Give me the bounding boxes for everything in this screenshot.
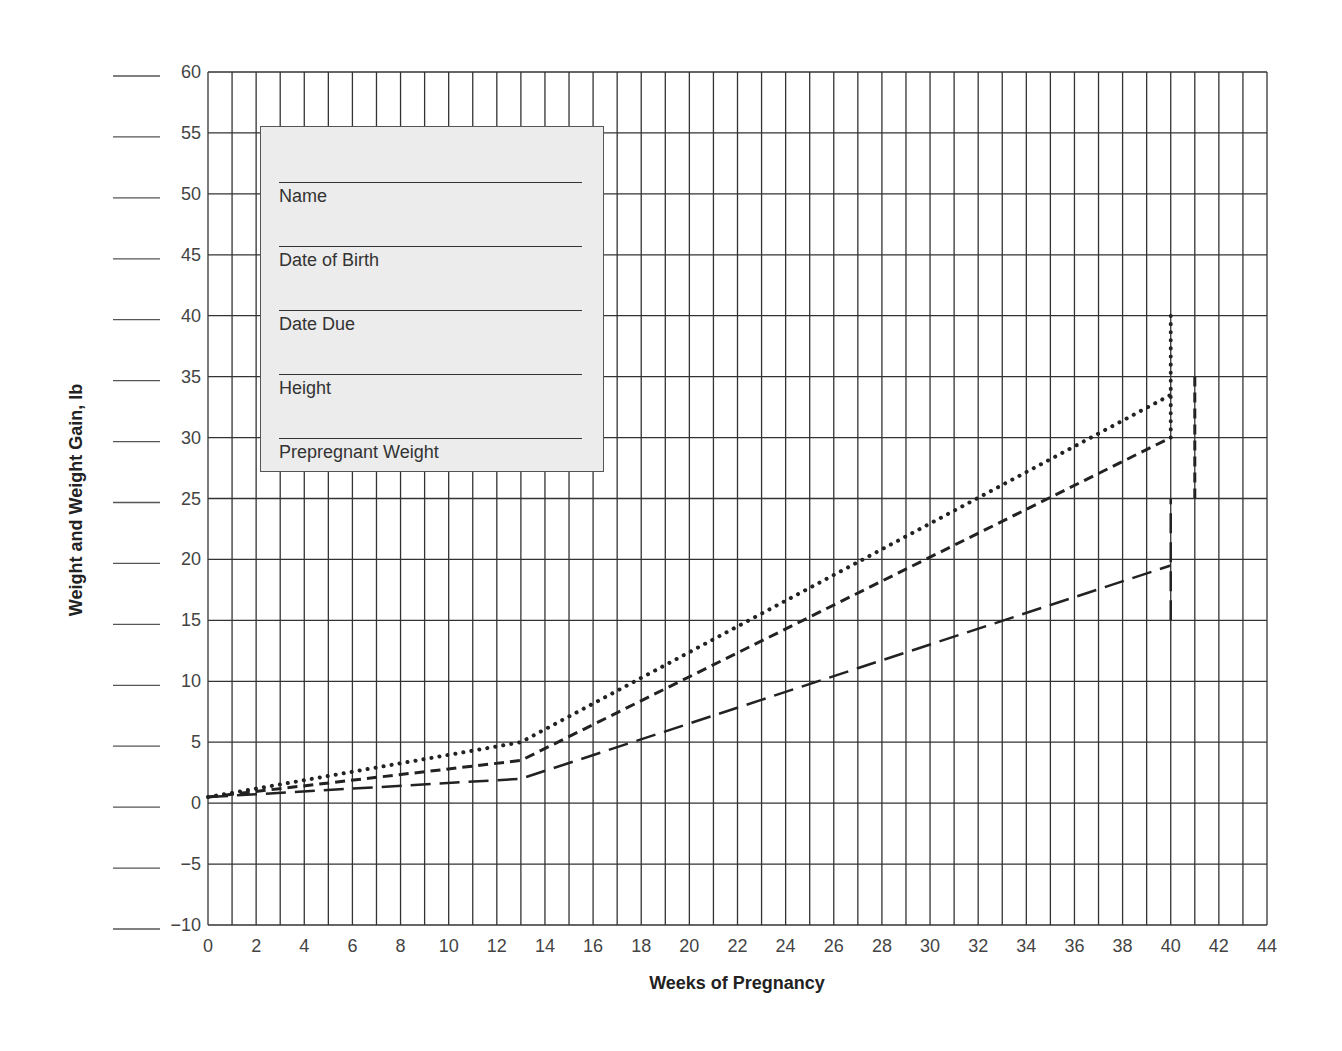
- x-tick-label: 18: [631, 936, 651, 956]
- y-axis-title: Weight and Weight Gain, lb: [66, 384, 86, 616]
- x-tick-label: 28: [872, 936, 892, 956]
- x-tick-label: 2: [251, 936, 261, 956]
- y-tick-label: 55: [181, 123, 201, 143]
- x-tick-label: 44: [1257, 936, 1277, 956]
- y-tick-label: 15: [181, 610, 201, 630]
- height-field[interactable]: Height: [279, 374, 582, 375]
- x-tick-label: 10: [439, 936, 459, 956]
- name-label: Name: [279, 186, 327, 207]
- y-tick-label: 30: [181, 428, 201, 448]
- y-tick-label: −5: [180, 854, 201, 874]
- date-of-birth-label: Date of Birth: [279, 250, 379, 271]
- name-field[interactable]: Name: [279, 182, 582, 183]
- x-tick-label: 34: [1016, 936, 1036, 956]
- x-axis-ticks: 0246810121416182022242628303234363840424…: [203, 936, 1277, 956]
- x-tick-label: 8: [396, 936, 406, 956]
- weight-entry-blanks: [113, 76, 160, 929]
- x-tick-label: 0: [203, 936, 213, 956]
- x-tick-label: 26: [824, 936, 844, 956]
- x-tick-label: 36: [1064, 936, 1084, 956]
- x-tick-label: 16: [583, 936, 603, 956]
- y-tick-label: 10: [181, 671, 201, 691]
- prepregnant-weight-field[interactable]: Prepregnant Weight: [279, 438, 582, 439]
- x-tick-label: 20: [679, 936, 699, 956]
- x-tick-label: 6: [347, 936, 357, 956]
- y-tick-label: 60: [181, 62, 201, 82]
- y-tick-label: 20: [181, 549, 201, 569]
- x-tick-label: 4: [299, 936, 309, 956]
- y-tick-label: 45: [181, 245, 201, 265]
- x-tick-label: 38: [1113, 936, 1133, 956]
- patient-info-form: Name Date of Birth Date Due Height Prepr…: [260, 126, 604, 472]
- weight-gain-chart: 605550454035302520151050−5−10 0246810121…: [0, 0, 1342, 1051]
- y-tick-label: 5: [191, 732, 201, 752]
- date-due-label: Date Due: [279, 314, 355, 335]
- y-tick-label: 0: [191, 793, 201, 813]
- x-tick-label: 22: [727, 936, 747, 956]
- x-tick-label: 12: [487, 936, 507, 956]
- y-tick-label: 35: [181, 367, 201, 387]
- date-due-field[interactable]: Date Due: [279, 310, 582, 311]
- x-tick-label: 14: [535, 936, 555, 956]
- height-label: Height: [279, 378, 331, 399]
- x-tick-label: 40: [1161, 936, 1181, 956]
- x-tick-label: 30: [920, 936, 940, 956]
- x-tick-label: 24: [776, 936, 796, 956]
- x-axis-title: Weeks of Pregnancy: [649, 973, 825, 993]
- y-tick-label: 40: [181, 306, 201, 326]
- y-tick-label: 25: [181, 489, 201, 509]
- x-tick-label: 32: [968, 936, 988, 956]
- y-tick-label: −10: [170, 915, 201, 935]
- y-axis-ticks: 605550454035302520151050−5−10: [170, 62, 201, 935]
- x-tick-label: 42: [1209, 936, 1229, 956]
- date-of-birth-field[interactable]: Date of Birth: [279, 246, 582, 247]
- prepregnant-weight-label: Prepregnant Weight: [279, 442, 439, 463]
- y-tick-label: 50: [181, 184, 201, 204]
